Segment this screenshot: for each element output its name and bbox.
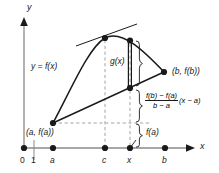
curve-label: y = f(x) [31, 62, 57, 71]
x-tick-label-one: 1 [31, 156, 36, 165]
x-tick-label-origin: 0 [20, 156, 25, 165]
tick-dot-origin [21, 145, 27, 151]
point-a-fa [50, 120, 56, 126]
brace-group [136, 41, 142, 147]
g-of-x-label: g(x) [110, 57, 125, 66]
formula-numerator: f(b) − f(a) [145, 92, 178, 101]
tick-dot-c [102, 145, 108, 151]
point-x-fx [127, 37, 133, 43]
brace-g-of-x [136, 41, 142, 86]
secant-height-formula: f(b) − f(a) b − a (x − a) [145, 92, 201, 109]
x-axis-label: x [200, 142, 205, 151]
point-b-fb [161, 69, 167, 75]
dashed-guides [53, 40, 150, 146]
diagram-canvas [0, 0, 219, 173]
x-tick-label-a: a [50, 156, 55, 165]
x-axis-arrowhead [186, 144, 195, 152]
leader-tick-x [130, 140, 136, 148]
point-a-label: (a, f(a)) [26, 128, 54, 137]
tick-dot-a [50, 145, 56, 151]
point-x-secant [127, 85, 133, 91]
x-tick-label-c: c [102, 156, 106, 165]
mean-value-theorem-figure: y x 0 1 a c x b y = f(x) (a, f(a)) (b, f… [0, 0, 219, 173]
point-b-label: (b, f(b)) [172, 67, 200, 76]
f-of-a-label: f(a) [146, 128, 159, 137]
y-axis-label: y [27, 3, 32, 12]
formula-denominator: b − a [145, 101, 178, 109]
brace-f-of-a [136, 124, 142, 147]
x-tick-label-x: x [127, 156, 131, 165]
point-c-fc [102, 35, 108, 41]
x-tick-label-b: b [162, 156, 167, 165]
brace-secant-height [136, 90, 142, 122]
y-axis-arrowhead [20, 17, 28, 26]
formula-tail: (x − a) [178, 96, 200, 105]
tick-dot-b [162, 145, 168, 151]
